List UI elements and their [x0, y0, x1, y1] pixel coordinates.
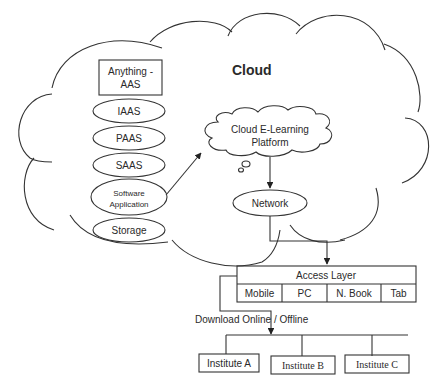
platform-line2: Platform: [251, 137, 288, 148]
institute-b-label: Institute B: [282, 360, 324, 371]
service-storage: Storage: [93, 218, 165, 242]
anything-aas-line1: Anything -: [108, 66, 153, 77]
institute-a-label: Institute A: [207, 358, 251, 369]
institute-c-label: Institute C: [356, 359, 398, 370]
cloud-elearning-diagram: Cloud Anything - AAS IAAS PAAS SAAS Soft…: [0, 0, 444, 386]
arrow-access-to-institutes: [220, 276, 271, 334]
network-label: Network: [252, 198, 290, 209]
software-app-line1: Software: [113, 189, 145, 198]
service-saas-label: SAAS: [116, 160, 143, 171]
platform-line1: Cloud E-Learning: [231, 124, 309, 135]
device-pc: PC: [298, 288, 312, 299]
service-software-application: Software Application: [91, 179, 167, 215]
service-iaas: IAAS: [93, 99, 165, 123]
download-label: Download Online / Offline: [195, 314, 309, 325]
service-paas-label: PAAS: [116, 133, 142, 144]
outer-cloud-shape: [19, 13, 429, 266]
device-notebook: N. Book: [336, 288, 373, 299]
device-tab: Tab: [390, 288, 407, 299]
service-iaas-label: IAAS: [118, 106, 141, 117]
institute-c: Institute C: [345, 355, 409, 373]
arrow-network-to-access-layer: [270, 216, 327, 264]
service-paas: PAAS: [93, 126, 165, 150]
service-storage-label: Storage: [111, 225, 146, 236]
device-mobile: Mobile: [245, 288, 275, 299]
access-layer-title: Access Layer: [296, 270, 357, 281]
anything-aas-line2: AAS: [120, 79, 140, 90]
network-node: Network: [233, 190, 307, 216]
institute-a: Institute A: [199, 354, 259, 372]
service-saas: SAAS: [93, 153, 165, 177]
software-app-line2: Application: [109, 200, 148, 209]
arrow-software-to-platform: [166, 153, 201, 195]
cloud-title: Cloud: [232, 62, 272, 78]
institute-b: Institute B: [271, 356, 335, 374]
